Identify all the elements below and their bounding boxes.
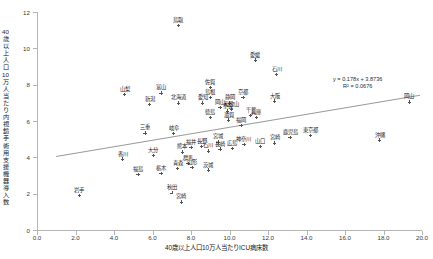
- data-point-label: 岐阜: [169, 125, 179, 131]
- data-point: [159, 91, 162, 94]
- y-axis-title: 40歳以上人口10万人当たり内視鏡手術用支援機器導入数: [1, 28, 10, 205]
- data-point-label: 鳥取: [173, 17, 183, 23]
- data-point-label: 福井: [186, 139, 196, 145]
- data-point: [218, 147, 221, 150]
- data-point-label: 青森: [173, 160, 183, 166]
- data-point: [273, 141, 276, 144]
- data-point: [177, 24, 180, 27]
- plot-area: 鳥取愛媛石川佐賀山梨富山島根京都大阪北海道愛知静岡新潟岡山和歌山奈良徳島滋賀千葉…: [37, 12, 422, 230]
- x-tick-label: 18.0: [371, 234, 397, 241]
- data-point-label: 山梨: [120, 86, 130, 92]
- x-tick-label: 14.0: [294, 234, 320, 241]
- x-tick-label: 8.0: [178, 234, 204, 241]
- data-point-label: 宮崎: [270, 134, 280, 140]
- data-point-label: 福島: [133, 166, 143, 172]
- x-tick-label: 6.0: [140, 234, 166, 241]
- data-point: [78, 194, 81, 197]
- y-tick-label: 8: [12, 81, 30, 88]
- data-point: [239, 124, 242, 127]
- data-point-label: 沖縄: [375, 132, 385, 138]
- regression-r2: R² = 0.0676: [333, 83, 382, 90]
- data-point-label: 奈良: [223, 103, 233, 109]
- x-tick-label: 0.0: [24, 234, 50, 241]
- data-point-label: 愛媛: [250, 52, 260, 58]
- y-tick-label: 4: [12, 154, 30, 161]
- data-point-label: 茨城: [203, 162, 213, 168]
- y-tick-label: 0: [12, 227, 30, 234]
- data-point-label: 山口: [255, 138, 265, 144]
- data-point: [378, 138, 381, 141]
- data-point-label: 徳島: [205, 109, 215, 115]
- x-axis-title: 40歳以上人口10万人当たりICU病床数: [0, 243, 433, 252]
- data-point-label: 広島: [227, 140, 237, 146]
- data-point: [288, 136, 291, 139]
- data-point: [170, 191, 173, 194]
- data-point: [255, 116, 258, 119]
- data-point-label: 佐賀: [205, 79, 215, 85]
- x-tick-label: 20.0: [409, 234, 433, 241]
- data-point: [180, 200, 183, 203]
- data-point-label: 岩手: [74, 187, 84, 193]
- data-point: [181, 150, 184, 153]
- data-point: [254, 58, 257, 61]
- data-point: [209, 116, 212, 119]
- y-tick-label: 12: [12, 9, 30, 16]
- y-tick-label: 6: [12, 118, 30, 125]
- data-point-label: 山形: [187, 159, 197, 165]
- data-point: [273, 99, 276, 102]
- regression-equation: y = 0.178x + 3.8736 R² = 0.0676: [333, 76, 382, 90]
- data-point-label: 東京都: [303, 127, 318, 133]
- data-point: [152, 154, 155, 157]
- data-point-label: 鹿児島: [283, 129, 298, 135]
- data-point-label: 三重: [140, 124, 150, 130]
- data-point: [143, 131, 146, 134]
- data-point: [172, 132, 175, 135]
- data-point: [309, 134, 312, 137]
- data-point: [259, 145, 262, 148]
- data-point-label: 香川: [118, 151, 128, 157]
- data-point-label: 宮城: [213, 133, 223, 139]
- data-point-label: 富山: [156, 84, 166, 90]
- data-point-label: 大分: [148, 147, 158, 153]
- x-tick-label: 4.0: [101, 234, 127, 241]
- data-point: [190, 166, 193, 169]
- x-tick-label: 12.0: [255, 234, 281, 241]
- data-point: [241, 96, 244, 99]
- data-point-label: 大阪: [270, 93, 280, 99]
- data-point-label: 長崎: [215, 141, 225, 147]
- data-point: [189, 146, 192, 149]
- data-point: [209, 96, 212, 99]
- data-point-label: 兵庫: [251, 109, 261, 115]
- data-point: [121, 157, 124, 160]
- x-tick-label: 16.0: [332, 234, 358, 241]
- scatter-chart: 40歳以上人口10万人当たり内視鏡手術用支援機器導入数 024681012 0.…: [0, 0, 433, 259]
- regression-equation-line: y = 0.178x + 3.8736: [333, 76, 382, 83]
- data-point-label: 静岡: [225, 94, 235, 100]
- data-point: [231, 147, 234, 150]
- data-point-label: 新潟: [145, 96, 155, 102]
- data-point-label: 福岡: [236, 117, 246, 123]
- data-point: [275, 73, 278, 76]
- data-point-label: 滋賀: [224, 112, 234, 118]
- data-point: [148, 103, 151, 106]
- data-point: [227, 118, 230, 121]
- data-point: [159, 172, 162, 175]
- data-point-label: 秋田: [167, 184, 177, 190]
- data-point-label: 神奈川: [236, 136, 251, 142]
- y-tick-label: 2: [12, 190, 30, 197]
- data-point-label: 熊本: [177, 143, 187, 149]
- data-point-label: 京都: [238, 89, 248, 95]
- data-point-label: 岡山: [404, 93, 414, 99]
- data-point: [218, 106, 221, 109]
- data-point: [201, 101, 204, 104]
- data-point: [123, 93, 126, 96]
- data-point: [207, 168, 210, 171]
- data-point-label: 栃木: [156, 165, 166, 171]
- data-point-label: 北海道: [171, 94, 186, 100]
- data-point-label: 石川: [203, 142, 213, 148]
- data-point-label: 石川: [272, 66, 282, 72]
- data-point: [242, 143, 245, 146]
- data-point: [177, 101, 180, 104]
- x-tick-label: 2.0: [63, 234, 89, 241]
- x-tick-label: 10.0: [217, 234, 243, 241]
